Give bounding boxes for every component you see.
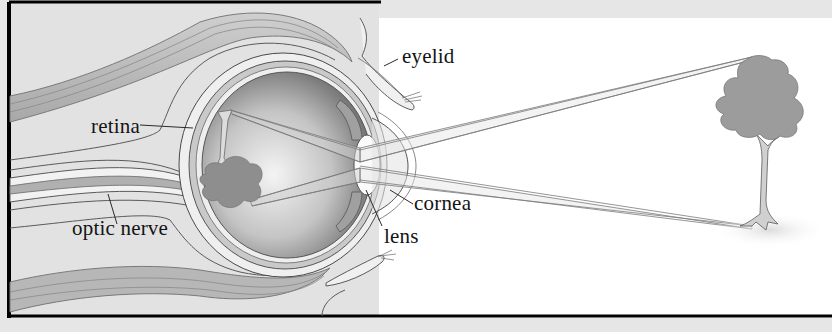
label-eyelid: eyelid	[402, 46, 455, 67]
eye-diagram: eyelid retina cornea lens optic nerve	[0, 0, 832, 332]
label-cornea: cornea	[414, 193, 471, 214]
label-retina: retina	[91, 116, 140, 137]
label-optic-nerve: optic nerve	[72, 218, 168, 239]
label-lens: lens	[384, 226, 419, 247]
